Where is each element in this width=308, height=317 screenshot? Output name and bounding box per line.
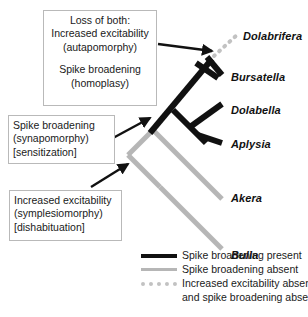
legend-item-spike-broadening-present: Spike broadening present <box>141 249 308 262</box>
callout-symp-line1: Increased excitability <box>14 194 117 207</box>
branch-gray-basal-left <box>128 155 160 187</box>
legend-label-both-absent: Increased excitability absent and spike … <box>182 277 308 303</box>
figure-canvas: Loss of both: Increased excitability (au… <box>0 0 308 317</box>
legend-label-absent: Spike broadening absent <box>182 263 298 276</box>
callout-symp-line3: [dishabituation] <box>14 221 117 234</box>
gray-branches <box>128 130 222 249</box>
legend-present-line1: Spike broadening present <box>182 249 302 262</box>
legend-item-both-absent: Increased excitability absent and spike … <box>141 277 308 303</box>
arrow-to-dolabrifera-node <box>158 44 212 51</box>
branch-root-gray <box>128 130 153 155</box>
taxon-label-aplysia: Aplysia <box>231 138 271 150</box>
callout-loss-of-both: Loss of both: Increased excitability (au… <box>43 10 157 106</box>
callout-loss-spacer <box>48 54 152 63</box>
callout-loss-line4: Spike broadening <box>48 63 152 76</box>
callout-symp-line2: (symplesiomorphy) <box>14 207 117 220</box>
node-bar-lower <box>190 104 222 127</box>
callout-loss-line5: (homoplasy) <box>48 77 152 90</box>
legend-swatch-solid-gray-icon <box>141 268 177 271</box>
legend-label-present: Spike broadening present <box>182 249 302 262</box>
taxon-label-dolabrifera: Dolabrifera <box>243 30 302 42</box>
legend: Spike broadening present Spike broadenin… <box>141 249 308 305</box>
legend-both-absent-line1: Increased excitability absent <box>182 277 308 290</box>
legend-both-absent-line2: and spike broadening absent <box>182 291 308 304</box>
branch-bulla <box>160 187 222 249</box>
callout-syn-line3: [sensitization] <box>13 146 110 159</box>
callout-loss-line1: Loss of both: <box>48 14 152 27</box>
legend-swatch-solid-black-icon <box>141 254 177 258</box>
callout-syn-line2: (synapomorphy) <box>13 132 110 145</box>
callout-loss-line3: (autapomorphy) <box>48 41 152 54</box>
arrow-to-gray-root-node <box>91 164 128 187</box>
taxon-label-dolabella: Dolabella <box>231 104 281 116</box>
black-branches <box>150 57 222 143</box>
arrow-to-aplysiidae-node <box>113 118 150 138</box>
legend-absent-line1: Spike broadening absent <box>182 263 298 276</box>
taxon-label-akera: Akera <box>231 192 262 204</box>
taxon-label-bursatella: Bursatella <box>231 71 285 83</box>
callout-syn-line1: Spike broadening <box>13 119 110 132</box>
callout-loss-line2: Increased excitability <box>48 27 152 40</box>
callout-synapomorphy: Spike broadening (synapomorphy) [sensiti… <box>8 115 115 164</box>
legend-item-spike-broadening-absent: Spike broadening absent <box>141 263 308 276</box>
dotted-branch-dolabrifera <box>214 34 238 56</box>
callout-symplesiomorphy: Increased excitability (symplesiomorphy)… <box>9 190 122 241</box>
legend-swatch-dotted-gray-icon <box>141 282 177 286</box>
